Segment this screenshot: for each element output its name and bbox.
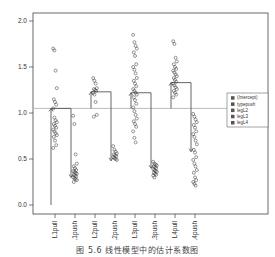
data-point xyxy=(194,165,197,168)
data-point xyxy=(52,135,55,138)
data-point xyxy=(74,153,77,156)
data-point xyxy=(132,51,135,54)
data-point xyxy=(134,99,137,102)
data-point xyxy=(95,87,98,90)
data-point xyxy=(192,171,195,174)
data-point xyxy=(95,113,98,116)
x-tick-label: L4push xyxy=(191,221,199,240)
legend-label: typepush xyxy=(237,102,256,107)
data-point xyxy=(195,169,198,172)
data-point xyxy=(135,102,138,105)
data-point xyxy=(112,145,115,148)
y-tick-label: 1.5 xyxy=(18,63,27,70)
data-point xyxy=(195,156,198,159)
data-point xyxy=(75,162,78,165)
data-point xyxy=(194,139,197,142)
data-point xyxy=(55,144,58,147)
data-point xyxy=(134,72,137,75)
x-tick-label: L4pull xyxy=(171,220,179,238)
x-tick-label: L3pull xyxy=(131,220,139,238)
coefficient-arrows xyxy=(49,83,193,205)
data-point xyxy=(135,85,138,88)
legend-label: legL2 xyxy=(237,108,249,113)
x-tick-label: L2pull xyxy=(91,220,99,238)
data-point xyxy=(52,146,55,149)
figure-caption: 图 5.6 线性模型中的估计系数图 xyxy=(0,244,275,255)
legend: (Intercept)typepushlegL2legL3legL4 xyxy=(227,93,268,127)
data-point xyxy=(94,82,97,85)
data-point xyxy=(135,63,138,66)
data-point xyxy=(54,69,57,72)
legend-label: legL3 xyxy=(237,114,249,119)
data-point xyxy=(133,68,136,71)
data-point xyxy=(134,113,137,116)
data-point xyxy=(94,100,97,103)
data-point xyxy=(195,130,198,133)
data-point xyxy=(195,121,198,124)
legend-swatch xyxy=(231,102,235,106)
y-tick-label: 0.5 xyxy=(18,155,27,162)
x-tick-label: L2push xyxy=(111,221,119,240)
y-tick-label: 1.0 xyxy=(18,109,27,116)
data-point xyxy=(134,54,137,57)
data-point xyxy=(132,130,135,133)
y-tick-label: 2.0 xyxy=(18,17,27,24)
data-point xyxy=(195,143,198,146)
data-point xyxy=(135,47,138,50)
data-point xyxy=(55,87,58,90)
data-point xyxy=(175,60,178,63)
data-point xyxy=(92,115,95,118)
data-point xyxy=(73,123,76,126)
legend-swatch xyxy=(231,96,235,100)
coefficient-chart: 0.00.51.01.52.0 L1pullL1pushL2pullL2push… xyxy=(0,0,275,240)
data-point xyxy=(54,139,57,142)
legend-label: (Intercept) xyxy=(237,95,258,100)
data-point xyxy=(135,117,138,120)
data-point xyxy=(174,56,177,59)
legend-label: legL4 xyxy=(237,120,249,125)
data-point xyxy=(192,158,195,161)
data-point xyxy=(135,125,138,128)
data-point xyxy=(194,151,197,154)
coefficient-arrow xyxy=(89,92,93,109)
x-tick-label: L3push xyxy=(151,221,159,240)
data-point xyxy=(55,103,58,106)
legend-swatch xyxy=(231,109,235,113)
data-point xyxy=(132,33,135,36)
coefficient-arrow xyxy=(51,108,73,177)
data-point xyxy=(72,114,75,117)
y-tick-label: 0.0 xyxy=(18,201,27,208)
x-tick-label: L1push xyxy=(71,221,79,240)
data-point xyxy=(193,135,196,138)
data-point xyxy=(133,136,136,139)
data-points xyxy=(52,33,199,187)
x-tick-label: L1pull xyxy=(51,220,59,238)
legend-swatch xyxy=(231,115,235,119)
coefficient-arrow xyxy=(169,83,173,109)
legend-swatch xyxy=(231,121,235,125)
data-point xyxy=(133,41,136,44)
data-point xyxy=(134,141,137,144)
data-point xyxy=(194,126,197,129)
data-point xyxy=(135,77,138,80)
data-point xyxy=(195,179,198,182)
y-axis: 0.00.51.01.52.0 xyxy=(18,17,33,208)
data-point xyxy=(133,110,136,113)
data-point xyxy=(172,96,175,99)
coefficient-arrow xyxy=(171,83,193,152)
data-point xyxy=(72,181,75,184)
data-point xyxy=(173,43,176,46)
x-axis: L1pullL1pushL2pullL2pushL3pullL3pushL4pu… xyxy=(51,214,199,240)
coefficient-arrow xyxy=(49,108,53,205)
